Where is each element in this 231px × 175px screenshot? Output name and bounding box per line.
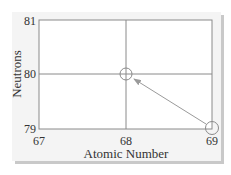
x-axis-label: Atomic Number [84, 146, 170, 161]
x-tick-69: 69 [206, 134, 218, 148]
x-tick-67: 67 [33, 134, 45, 148]
y-tick-81: 81 [24, 14, 36, 28]
y-tick-80: 80 [24, 67, 36, 81]
y-axis-label: Neutrons [9, 50, 24, 98]
chart: 81 80 79 67 68 69 Atomic Number Neutrons [0, 0, 231, 175]
